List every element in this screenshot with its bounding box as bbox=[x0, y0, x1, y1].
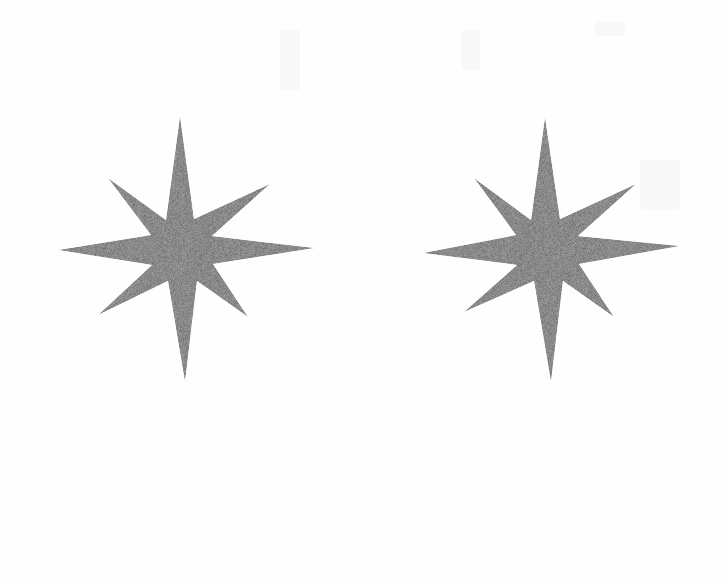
right-star-icon bbox=[423, 117, 680, 382]
left-star-icon bbox=[58, 116, 315, 382]
bleed-through-marks bbox=[280, 22, 680, 210]
stars-canvas bbox=[0, 0, 728, 580]
scanned-page bbox=[0, 0, 728, 580]
